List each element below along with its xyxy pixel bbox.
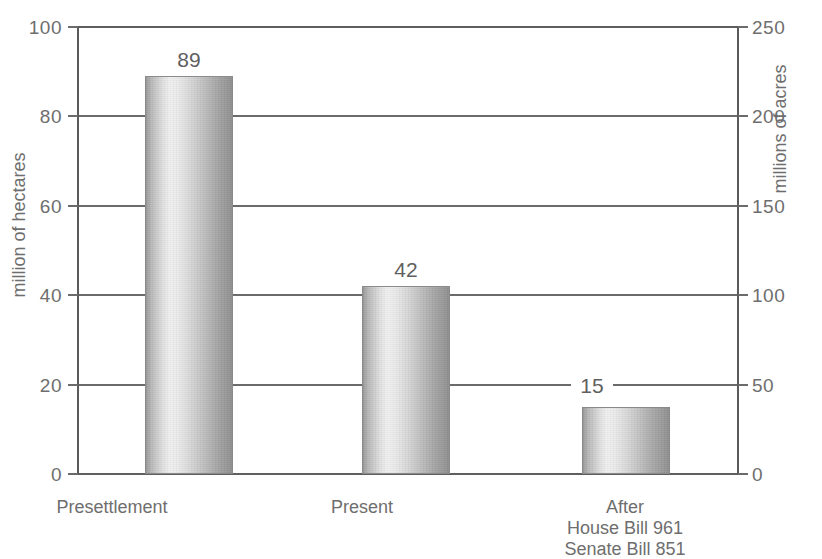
y-tick-label-left-20: 20 (40, 375, 62, 394)
bar-chart-figure: 100 80 60 40 20 0 250 200 150 100 50 0 m… (0, 0, 822, 559)
y-tick-right-50 (738, 384, 748, 386)
x-category-line-2: House Bill 961 (555, 518, 695, 539)
x-category-line-1: After (555, 497, 695, 518)
y-tick-label-left-40: 40 (40, 286, 62, 305)
bar-presettlement[interactable] (145, 76, 233, 474)
y-axis-left-title: million of hectares (10, 110, 28, 340)
y-tick-label-right-50: 50 (752, 375, 774, 394)
y-tick-left-100 (68, 26, 78, 28)
y-tick-left-80 (68, 115, 78, 117)
bar-value-presettlement: 89 (145, 49, 233, 70)
x-category-line: Present (292, 497, 432, 518)
x-category-label-presettlement: Presettlement (42, 497, 182, 518)
y-tick-left-0 (68, 473, 78, 475)
plot-area: 89 42 15 (77, 27, 739, 474)
bar-present[interactable] (362, 286, 450, 474)
bar-value-after-bills: 15 (571, 375, 613, 396)
y-tick-left-40 (68, 294, 78, 296)
y-tick-right-200 (738, 115, 748, 117)
x-category-label-after-bills: After House Bill 961 Senate Bill 851 (555, 497, 695, 559)
y-tick-left-60 (68, 205, 78, 207)
y-axis-right-title: millions of acres (771, 14, 789, 244)
y-tick-label-left-80: 80 (40, 107, 62, 126)
bar-value-present: 42 (362, 259, 450, 280)
y-tick-left-20 (68, 384, 78, 386)
y-tick-right-100 (738, 294, 748, 296)
x-category-line: Presettlement (42, 497, 182, 518)
y-axis-right-line (737, 26, 739, 475)
y-tick-label-left-0: 0 (51, 465, 62, 484)
gridline-100 (77, 26, 739, 28)
y-tick-right-150 (738, 205, 748, 207)
x-category-label-present: Present (292, 497, 432, 518)
y-tick-label-left-60: 60 (40, 196, 62, 215)
y-tick-right-250 (738, 26, 748, 28)
y-axis-left-line (77, 26, 79, 475)
x-category-line-3: Senate Bill 851 (555, 539, 695, 559)
y-tick-label-left-100: 100 (29, 18, 62, 37)
y-tick-label-right-100: 100 (752, 286, 785, 305)
y-tick-right-0 (738, 473, 748, 475)
bar-after-bills[interactable] (582, 407, 670, 474)
y-tick-label-right-0: 0 (752, 465, 763, 484)
